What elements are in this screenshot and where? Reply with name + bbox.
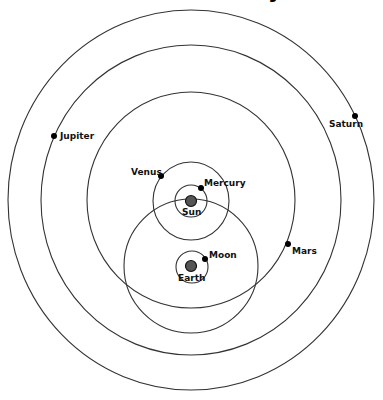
earth-label: Earth — [178, 273, 205, 283]
mars-label: Mars — [292, 246, 317, 256]
mercury-label: Mercury — [204, 178, 246, 188]
mars-dot — [285, 241, 291, 247]
jupiter-label: Jupiter — [59, 131, 95, 141]
tychonic-system-diagram: y Sun Earth Jupiter Saturn Venus Mercury… — [0, 0, 383, 400]
sun-label: Sun — [182, 207, 201, 217]
sun-dot — [186, 196, 197, 207]
earth-dot — [186, 261, 197, 272]
moon-label: Moon — [209, 250, 237, 260]
moon-dot — [202, 256, 208, 262]
saturn-label: Saturn — [329, 119, 363, 129]
jupiter-dot — [51, 133, 57, 139]
title-fragment: y — [268, 0, 282, 3]
venus-label: Venus — [131, 167, 162, 177]
